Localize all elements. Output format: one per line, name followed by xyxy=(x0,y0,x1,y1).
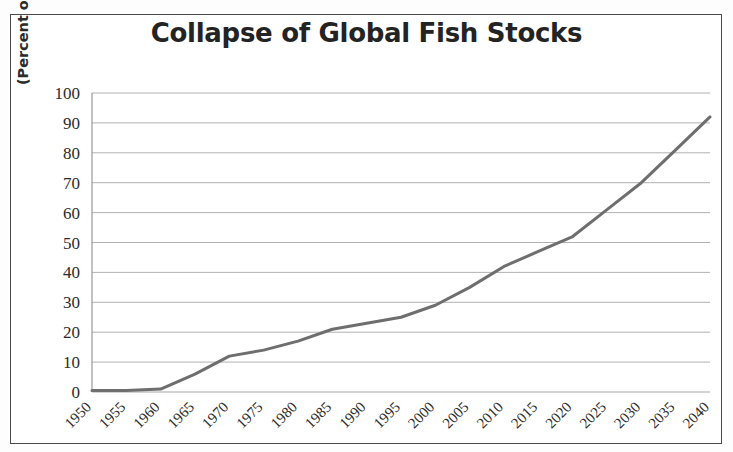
x-tick-label: 1980 xyxy=(268,399,301,432)
x-tick-label: 1990 xyxy=(336,399,369,432)
x-tick-label: 2010 xyxy=(474,399,507,432)
x-tick-label: 1955 xyxy=(96,399,129,432)
line-chart-plot: 0102030405060708090100 19501955196019651… xyxy=(0,0,733,452)
x-tick-label: 1985 xyxy=(302,399,335,432)
y-tick-label: 30 xyxy=(63,293,80,312)
y-tick-label: 80 xyxy=(63,144,80,163)
x-tick-label: 2030 xyxy=(611,399,644,432)
gridline-group xyxy=(92,93,710,392)
x-tick-label: 1965 xyxy=(165,399,198,432)
x-tick-label: 2000 xyxy=(405,399,438,432)
y-tick-label: 50 xyxy=(63,234,80,253)
x-tick-label: 2040 xyxy=(680,399,713,432)
x-tick-label: 1970 xyxy=(199,399,232,432)
x-tick-label: 1950 xyxy=(62,399,95,432)
y-tick-label: 10 xyxy=(63,353,80,372)
x-tick-label: 2035 xyxy=(645,399,678,432)
figure-canvas: Collapse of Global Fish Stocks (Percent … xyxy=(0,0,733,452)
x-tick-label: 1975 xyxy=(233,399,266,432)
x-tick-label: 2020 xyxy=(542,399,575,432)
y-tick-label: 40 xyxy=(63,263,80,282)
y-tick-label: 20 xyxy=(63,323,80,342)
y-axis-tick-labels: 0102030405060708090100 xyxy=(55,84,81,402)
x-tick-label: 2005 xyxy=(439,399,472,432)
y-tick-label: 70 xyxy=(63,174,80,193)
x-tick-label: 2015 xyxy=(508,399,541,432)
y-tick-label: 100 xyxy=(55,84,81,103)
x-tick-label: 2025 xyxy=(577,399,610,432)
x-axis-tick-labels: 1950195519601965197019751980198519901995… xyxy=(62,399,713,432)
data-series-line xyxy=(92,117,710,391)
x-tick-label: 1995 xyxy=(371,399,404,432)
y-tick-label: 90 xyxy=(63,114,80,133)
y-tick-label: 60 xyxy=(63,204,80,223)
y-tick-label: 0 xyxy=(72,383,81,402)
x-tick-label: 1960 xyxy=(130,399,163,432)
